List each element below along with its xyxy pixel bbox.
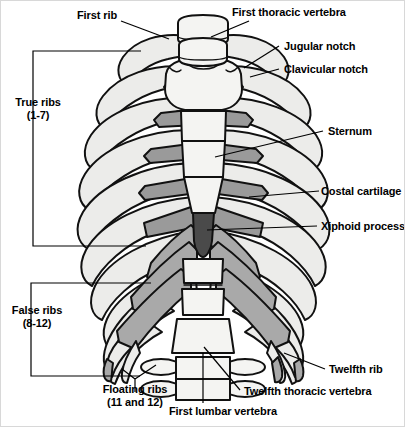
label-twelfth-thoracic-vertebra: Twelfth thoracic vertebra	[244, 385, 372, 398]
label-first-thoracic-vertebra: First thoracic vertebra	[232, 6, 346, 19]
label-false-ribs: False ribs(8-12)	[4, 304, 70, 329]
label-costal-cartilage: Costal cartilage	[321, 185, 401, 198]
rib-cage-figure: .ol{stroke:#111;stroke-width:2;stroke-li…	[0, 0, 405, 427]
label-first-lumbar-vertebra: First lumbar vertebra	[169, 405, 277, 418]
label-clavicular-notch: Clavicular notch	[284, 63, 368, 76]
label-jugular-notch: Jugular notch	[284, 40, 355, 53]
label-xiphoid-process: Xiphoid process	[321, 220, 405, 233]
leader-first-rib	[121, 21, 169, 39]
label-twelfth-rib: Twelfth rib	[329, 363, 383, 376]
label-first-rib: First rib	[77, 9, 117, 22]
label-sternum: Sternum	[328, 125, 372, 138]
label-true-ribs: True ribs(1-7)	[7, 96, 69, 121]
